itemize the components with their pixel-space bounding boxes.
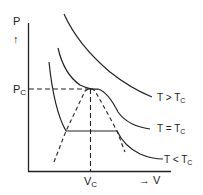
y-axis-arrow-icon: ↑: [13, 33, 19, 45]
isotherm-below-critical: [49, 62, 163, 159]
critical-pressure-label: PC: [13, 83, 26, 97]
y-axis-label: P: [13, 15, 20, 27]
isotherm-label-below: T < TC: [164, 154, 192, 166]
pv-diagram: P ↑ PC VC → V T > TC T = TC T < TC: [0, 0, 203, 195]
critical-volume-label: VC: [84, 175, 97, 189]
isotherm-label-critical: T = TC: [157, 123, 185, 135]
coexistence-curve: [54, 89, 125, 162]
isotherm-above-critical: [64, 14, 152, 97]
x-axis-label: → V: [139, 174, 161, 186]
isotherm-label-above: T > TC: [157, 92, 185, 104]
